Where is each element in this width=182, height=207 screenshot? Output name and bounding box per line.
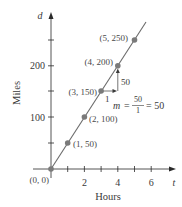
point-label: (0, 0) xyxy=(30,175,50,185)
data-point xyxy=(65,140,71,146)
y-tick-label: 200 xyxy=(30,60,45,71)
point-label: (5, 250) xyxy=(100,33,129,43)
slope-denominator: 1 xyxy=(136,106,140,115)
run-label: 1 xyxy=(105,94,110,104)
y-axis-title: Miles xyxy=(11,81,22,105)
x-axis-var: t xyxy=(173,177,176,188)
rise-label: 50 xyxy=(121,77,131,87)
data-point xyxy=(48,166,54,172)
data-point xyxy=(115,63,121,69)
slope-equation: m = 50 1 = 50 xyxy=(113,95,164,115)
slope-lhs: m xyxy=(113,100,120,111)
slope-eq: = xyxy=(124,100,130,111)
x-axis-title: Hours xyxy=(95,191,121,202)
x-axis-arrow-icon xyxy=(169,167,176,172)
y-axis-var: d xyxy=(38,10,44,21)
data-line xyxy=(51,22,146,169)
y-axis-arrow-icon xyxy=(49,12,54,19)
point-label: (1, 50) xyxy=(73,139,97,149)
data-point xyxy=(82,114,88,120)
slope-triangle xyxy=(101,69,120,94)
rise-arrow-icon xyxy=(116,69,120,74)
run-arrow-icon xyxy=(113,89,118,93)
chart: 2 4 6 t 100 200 d Hours Miles 1 50 m = 5… xyxy=(0,0,182,207)
point-label: (2, 100) xyxy=(89,114,118,124)
x-tick-label: 2 xyxy=(82,177,87,188)
point-label: (3, 150) xyxy=(69,87,98,97)
slope-result: = 50 xyxy=(146,100,164,111)
data-point xyxy=(98,88,104,94)
x-tick-label: 4 xyxy=(115,177,120,188)
y-tick-label: 100 xyxy=(30,112,45,123)
slope-numerator: 50 xyxy=(134,95,142,104)
x-tick-label: 6 xyxy=(149,177,154,188)
point-label: (4, 200) xyxy=(85,57,114,67)
data-point xyxy=(132,37,138,43)
